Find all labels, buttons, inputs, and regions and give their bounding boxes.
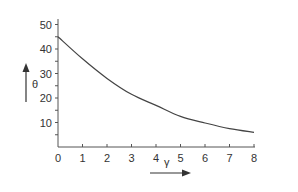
y-tick-label: 40 (40, 43, 52, 55)
y-tick-label: 10 (40, 117, 52, 129)
x-tick-label: 3 (128, 152, 134, 164)
x-tick-label: 2 (104, 152, 110, 164)
x-axis-label: γ (164, 156, 170, 168)
y-tick-label: 50 (40, 19, 52, 31)
data-curve (58, 37, 254, 133)
y-axis-ticks: 1020304050 (40, 19, 58, 135)
theta-arrow-head-icon (23, 63, 30, 72)
y-tick-label: 20 (40, 92, 52, 104)
x-tick-label: 1 (79, 152, 85, 164)
y-axis-label: θ (32, 78, 38, 90)
x-tick-label: 4 (153, 152, 159, 164)
y-tick-label: 30 (40, 68, 52, 80)
x-tick-label: 7 (226, 152, 232, 164)
x-tick-label: 8 (251, 152, 257, 164)
x-tick-label: 5 (177, 152, 183, 164)
x-tick-label: 6 (202, 152, 208, 164)
x-tick-label: 0 (55, 152, 61, 164)
decay-curve-chart: 1020304050 012345678 θ γ (0, 0, 298, 192)
gamma-arrow-head-icon (182, 170, 191, 177)
